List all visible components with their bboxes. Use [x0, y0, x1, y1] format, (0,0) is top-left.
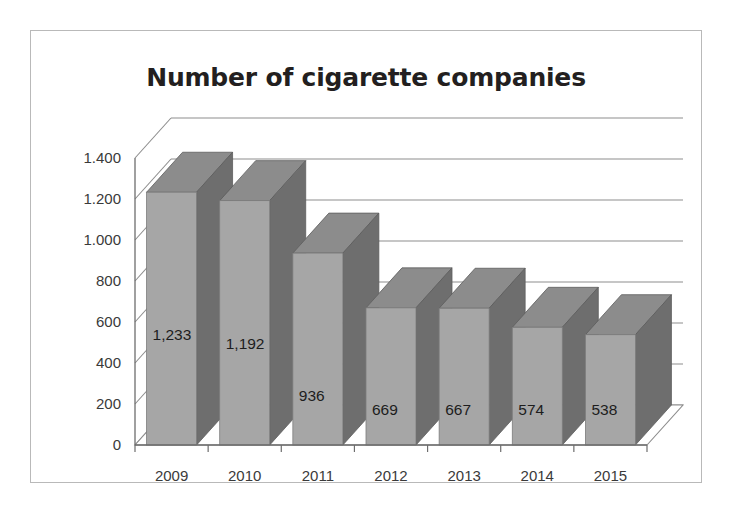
bar-front-face [366, 308, 416, 445]
bar-front-face [147, 192, 197, 445]
bar-front-face [585, 335, 635, 445]
bar-front-face [220, 201, 270, 445]
chart-frame: Number of cigarette companies1.4001.2001… [30, 30, 702, 483]
bar-front-face [512, 327, 562, 445]
data-label-2014: 574 [518, 401, 544, 418]
x-axis-label-2009: 2009 [155, 467, 188, 482]
bar-front-face [293, 253, 343, 445]
y-axis-tick-label: 0 [113, 436, 121, 453]
x-axis-label-2013: 2013 [447, 467, 480, 482]
data-label-2010: 1,192 [226, 335, 265, 352]
data-label-2009: 1,233 [153, 326, 192, 343]
x-axis-label-2015: 2015 [594, 467, 627, 482]
y-axis-tick-label: 400 [96, 354, 121, 371]
x-axis-label-2011: 2011 [302, 467, 334, 482]
y-axis-tick-label: 600 [96, 313, 121, 330]
y-axis-tick-label: 200 [96, 395, 121, 412]
bar-chart: Number of cigarette companies1.4001.2001… [31, 31, 701, 482]
bar-front-face [439, 308, 489, 445]
x-axis-label-2014: 2014 [521, 467, 554, 482]
y-axis-tick-label: 1.400 [83, 149, 121, 166]
y-axis-tick-label: 1.200 [83, 190, 121, 207]
x-axis-label-2010: 2010 [228, 467, 261, 482]
y-axis-tick-label: 800 [96, 272, 121, 289]
axis-connector [135, 118, 171, 158]
y-axis-tick-label: 1.000 [83, 231, 121, 248]
data-label-2012: 669 [372, 401, 398, 418]
data-label-2015: 538 [591, 401, 617, 418]
data-label-2011: 936 [299, 387, 325, 404]
x-axis-label-2012: 2012 [374, 467, 407, 482]
data-label-2013: 667 [445, 401, 471, 418]
chart-title: Number of cigarette companies [146, 63, 586, 92]
